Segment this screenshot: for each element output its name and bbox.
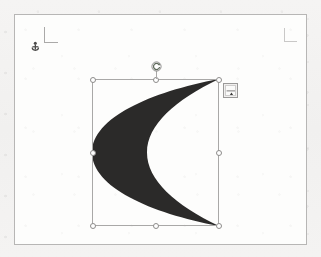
handle-middle-right[interactable]	[216, 150, 222, 156]
handle-bottom-center[interactable]	[153, 223, 159, 229]
app-screen: Layout Options	[0, 0, 321, 257]
layout-options-icon	[225, 85, 236, 96]
handle-top-right[interactable]	[216, 77, 222, 83]
layout-options-button[interactable]: Layout Options	[223, 83, 238, 98]
handle-bottom-left[interactable]	[90, 223, 96, 229]
handle-middle-left[interactable]	[90, 150, 96, 156]
handle-top-left[interactable]	[90, 77, 96, 83]
handle-bottom-right[interactable]	[216, 223, 222, 229]
shape-selection-frame[interactable]	[92, 79, 219, 226]
rotate-handle-icon[interactable]	[151, 58, 162, 69]
